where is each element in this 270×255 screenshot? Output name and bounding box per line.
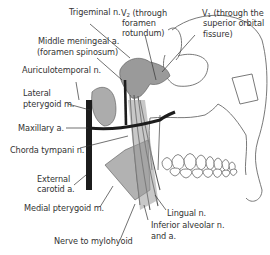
label-inferior-alveolar: Inferior alveolar n. [151, 220, 224, 230]
v1-line1: (through the [211, 8, 264, 18]
label-chorda-tympani: Chorda tympani n. [10, 145, 84, 155]
label-medial-pterygoid: Medial pterygoid m. [24, 203, 104, 213]
v2-line1: (through [130, 8, 167, 18]
label-lingual-nerve: Lingual n. [167, 208, 206, 218]
label-middle-meningeal-artery: Middle meningeal a. [38, 36, 119, 46]
label-maxillary-artery: Maxillary a. [18, 123, 64, 133]
label-v2-maxillary-division: V2 (through [121, 8, 167, 18]
lateral-pterygoid-muscle [92, 87, 116, 126]
label-v2-line3: rotundum) [122, 28, 164, 38]
label-external-carotid-line2: carotid a. [37, 184, 75, 194]
label-auriculotemporal-nerve: Auriculotemporal n. [22, 65, 101, 75]
teeth [162, 154, 237, 179]
middle-meningeal-artery [125, 80, 126, 125]
anatomy-diagram: Trigeminal n. V2 (through foramen rotund… [0, 0, 270, 255]
label-inferior-alveolar-line2: and a. [151, 231, 176, 241]
label-v1-ophthalmic-division: V1 (through the [202, 8, 264, 18]
trigeminal-ganglion [120, 58, 170, 98]
label-trigeminal-nerve: Trigeminal n. [69, 7, 121, 17]
label-external-carotid-artery: External [37, 174, 70, 184]
label-v1-line3: fissure) [203, 29, 233, 39]
label-lateral-pterygoid: Lateral [23, 88, 51, 98]
label-v2-line2: foramen [122, 18, 156, 28]
label-nerve-to-mylohyoid: Nerve to mylohyoid [54, 236, 133, 246]
label-v1-line2: superior orbital [203, 18, 264, 28]
label-middle-meningeal-line2: (foramen spinosum) [37, 47, 118, 57]
label-lateral-pterygoid-line2: pterygoid m. [23, 99, 74, 109]
